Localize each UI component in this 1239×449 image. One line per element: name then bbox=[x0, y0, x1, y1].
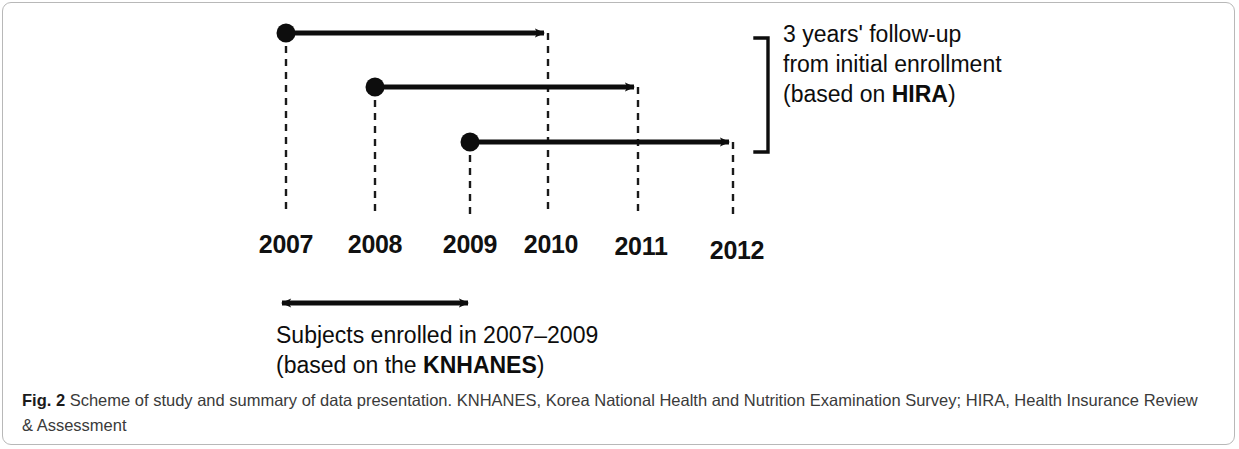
year-label-2011: 2011 bbox=[614, 234, 667, 259]
followup-line-3-prefix: (based on bbox=[783, 81, 892, 107]
cohort-bar-2009 bbox=[461, 133, 730, 152]
figure-caption-label: Fig. 2 bbox=[22, 391, 65, 409]
figure-caption-text: Scheme of study and summary of data pres… bbox=[22, 391, 1198, 434]
cohort-start-dot-2008 bbox=[366, 78, 385, 97]
followup-annotation: 3 years' follow-up from initial enrollme… bbox=[783, 20, 1002, 110]
enrollment-line-1: Subjects enrolled in 2007–2009 bbox=[276, 320, 598, 350]
cohort-start-dot-2007 bbox=[277, 24, 296, 43]
figure-caption: Fig. 2 Scheme of study and summary of da… bbox=[22, 388, 1212, 438]
enrollment-line-2-prefix: (based on the bbox=[276, 352, 423, 378]
cohort-bar-2008 bbox=[366, 78, 635, 97]
year-guide-lines bbox=[286, 33, 733, 214]
cohort-start-dot-2009 bbox=[461, 133, 480, 152]
followup-source-hira: HIRA bbox=[892, 81, 948, 107]
enrollment-annotation: Subjects enrolled in 2007–2009 (based on… bbox=[276, 320, 598, 381]
year-label-2010: 2010 bbox=[524, 232, 578, 257]
followup-bracket bbox=[755, 38, 768, 152]
year-label-2012: 2012 bbox=[710, 238, 764, 263]
timeline-svg bbox=[0, 0, 1239, 380]
followup-line-3: (based on HIRA) bbox=[783, 80, 1002, 110]
followup-line-1: 3 years' follow-up bbox=[783, 20, 1002, 50]
followup-line-3-suffix: ) bbox=[948, 81, 956, 107]
figure-2-container: 2007 2008 2009 2010 2011 2012 3 years' f… bbox=[0, 0, 1239, 449]
study-scheme-diagram: 2007 2008 2009 2010 2011 2012 3 years' f… bbox=[0, 0, 1239, 380]
enrollment-line-2-suffix: ) bbox=[537, 352, 545, 378]
year-label-2009: 2009 bbox=[443, 232, 497, 257]
year-label-2007: 2007 bbox=[259, 232, 313, 257]
followup-line-2: from initial enrollment bbox=[783, 50, 1002, 80]
year-label-2008: 2008 bbox=[348, 232, 402, 257]
enrollment-source-knhanes: KNHANES bbox=[423, 352, 537, 378]
cohort-bar-2007 bbox=[277, 24, 545, 43]
enrollment-line-2: (based on the KNHANES) bbox=[276, 350, 598, 380]
